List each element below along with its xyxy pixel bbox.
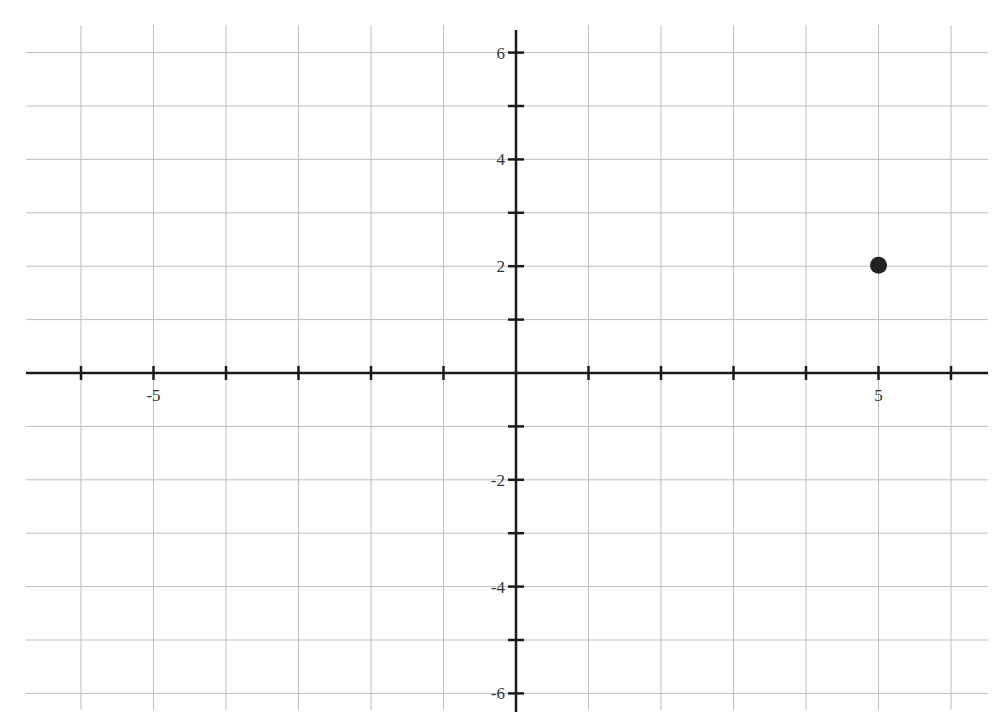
x-tick-label: -5 [146, 386, 160, 405]
axes [26, 30, 988, 712]
y-tick-label: 6 [497, 44, 506, 63]
data-points [870, 257, 887, 274]
coordinate-plane: -55642-2-4-6 [0, 0, 1004, 726]
x-tick-label: 5 [874, 386, 883, 405]
y-tick-label: -4 [491, 578, 506, 597]
grid-lines [26, 25, 988, 710]
y-tick-label: 4 [497, 150, 506, 169]
y-tick-label: -2 [491, 471, 505, 490]
y-tick-label: -6 [491, 684, 505, 703]
y-tick-label: 2 [497, 257, 506, 276]
data-point [870, 257, 887, 274]
